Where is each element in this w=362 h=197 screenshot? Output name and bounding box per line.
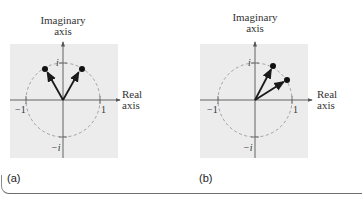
label-1: 1 bbox=[293, 104, 298, 115]
real-axis-title-line2: axis bbox=[317, 100, 347, 111]
label-neg-1: −1 bbox=[207, 104, 218, 115]
real-axis-title-line2: axis bbox=[122, 100, 148, 111]
panel-b bbox=[200, 42, 312, 158]
panel-label-a: (a) bbox=[7, 172, 20, 184]
label-1: 1 bbox=[101, 104, 106, 115]
imaginary-axis-title-line2: axis bbox=[227, 23, 283, 34]
point-2 bbox=[284, 77, 290, 83]
point-2 bbox=[79, 66, 85, 72]
point-1 bbox=[270, 63, 276, 69]
panel-a bbox=[10, 42, 120, 158]
real-axis-title: Real axis bbox=[122, 89, 148, 111]
imaginary-axis-title: Imaginary axis bbox=[35, 15, 91, 37]
real-axis-title: Real axis bbox=[317, 89, 347, 111]
imaginary-axis-title-line2: axis bbox=[35, 26, 91, 37]
label-i: i bbox=[56, 57, 59, 68]
panel-label-b: (b) bbox=[199, 172, 212, 184]
label-i: i bbox=[248, 57, 251, 68]
label-neg-i: −i bbox=[51, 142, 61, 153]
point-1 bbox=[42, 66, 48, 72]
imaginary-axis-title: Imaginary axis bbox=[227, 12, 283, 34]
label-neg-i: −i bbox=[243, 142, 253, 153]
label-neg-1: −1 bbox=[15, 104, 26, 115]
